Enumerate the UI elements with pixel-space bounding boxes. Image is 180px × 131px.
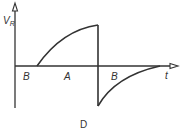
y-axis-arrow-icon xyxy=(13,3,18,11)
x-axis-arrow-icon xyxy=(170,64,178,69)
y-axis-label: VR xyxy=(3,15,15,27)
x-axis-label: t xyxy=(165,70,169,81)
waveform-rise-curve xyxy=(37,25,98,66)
region-label-b-left: B xyxy=(23,71,30,82)
figure-caption: D xyxy=(80,119,87,130)
waveform-decay-curve xyxy=(98,66,160,106)
region-label-b-right: B xyxy=(111,71,118,82)
waveform-diagram: VR t B A B D xyxy=(0,0,180,131)
region-label-a: A xyxy=(63,71,71,82)
